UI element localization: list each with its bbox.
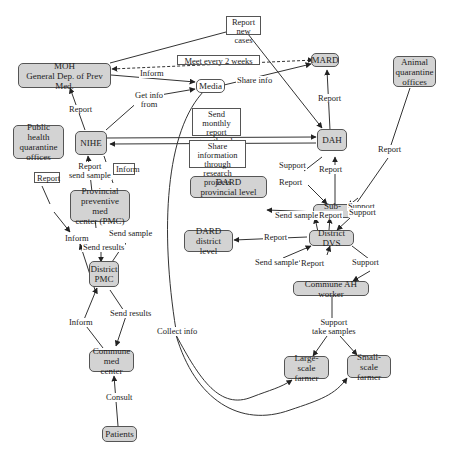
label-report-send-sample: Report send sample xyxy=(68,162,112,180)
edge-dpmc-cmc-results xyxy=(116,316,126,346)
node-commune-ah-worker[interactable]: Commune AH worker xyxy=(293,281,369,296)
node-district-dvs[interactable]: District DVS xyxy=(309,230,354,246)
label-report-new-cases: Report new cases xyxy=(226,16,261,35)
node-district-pmc[interactable]: District PMC xyxy=(89,261,119,287)
label-report-dah-mard: Report xyxy=(317,94,342,103)
label-report-subdah-dard: Report xyxy=(278,178,303,187)
label-inform-moh-media: Inform xyxy=(139,69,165,78)
node-pmc[interactable]: Provincial preventive med center (PMC) xyxy=(70,190,130,222)
node-patients[interactable]: Patients xyxy=(102,426,137,442)
label-send-results-dpmc-cmc: Send results xyxy=(109,309,152,318)
label-get-info-from: Get info from xyxy=(134,91,164,109)
node-animal-quarantine[interactable]: Animal quarantine offices xyxy=(393,56,436,87)
label-report-dvs-dard: Report xyxy=(263,233,288,242)
node-nihe[interactable]: NIHE xyxy=(75,131,107,155)
label-send-results-pmc-dpmc: Send results xyxy=(82,243,125,252)
label-report-dvs-subdah: Report xyxy=(318,211,343,220)
label-report-animal-quarantine: Report xyxy=(377,145,402,154)
label-send-sample-ah-dvs: Send sample xyxy=(254,258,299,267)
label-support-dah-subdah: Support xyxy=(278,161,307,170)
label-meet-every-2-weeks: Meet every 2 weeks xyxy=(177,55,260,65)
node-dah[interactable]: DAH xyxy=(317,129,347,151)
node-mard[interactable]: MARD xyxy=(311,53,339,67)
label-report-subdah-dah: Report xyxy=(318,165,343,174)
label-inform-nihe-pmc: Inform xyxy=(113,163,135,175)
edge-aq-report xyxy=(390,88,410,148)
node-small-scale-farmer[interactable]: Small-scale farmer xyxy=(347,355,391,378)
node-media[interactable]: Media xyxy=(196,79,225,93)
label-inform-cmc-dpmc: Inform xyxy=(68,318,94,327)
node-public-health-quarantine[interactable]: Public health quarantine offices xyxy=(13,125,64,159)
label-send-sample-dpmc-pmc: Send sample xyxy=(108,229,153,238)
label-share-info: Share info xyxy=(236,76,273,85)
label-report-nihe-moh: Report xyxy=(68,105,93,114)
label-send-sample-dvs-subdah: Send sample xyxy=(274,211,319,220)
label-support-subdah-dvs: Support xyxy=(348,208,377,217)
node-moh[interactable]: MOH General Dep. of Prev Med. xyxy=(18,63,111,88)
label-send-monthly-report: Send monthly report + outbreak xyxy=(192,108,241,136)
label-support-dvs-ah: Support xyxy=(351,258,380,267)
node-large-scale-farmer[interactable]: Large-scale farmer xyxy=(284,356,329,379)
node-commune-med-center[interactable]: Commune med center xyxy=(89,350,134,372)
label-report-ah-dvs: Report xyxy=(300,259,325,268)
edge-phq-pmc xyxy=(54,212,70,232)
label-share-info-research: Share information through research proje… xyxy=(189,140,246,168)
label-support-take-samples: Support take samples xyxy=(311,318,357,336)
label-report-phq: Report xyxy=(34,172,60,183)
node-dard-district[interactable]: DARD district level xyxy=(184,230,233,252)
label-collect-info: Collect info xyxy=(156,327,198,336)
label-consult: Consult xyxy=(105,393,133,402)
